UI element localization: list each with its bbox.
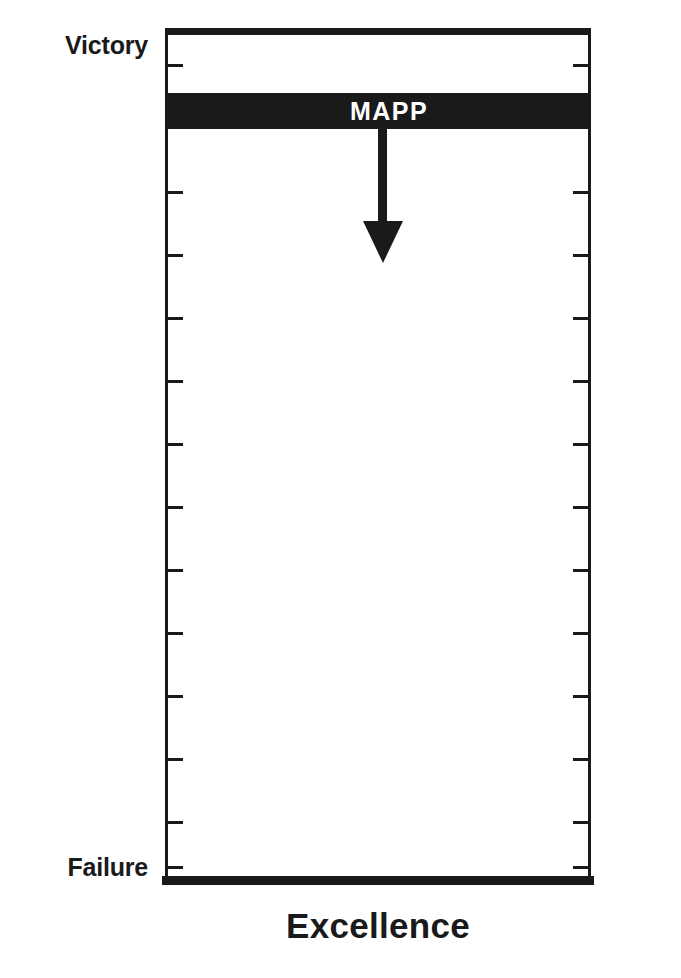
axis-right-line <box>588 28 591 884</box>
y-tick-right <box>573 191 588 194</box>
y-tick-right <box>573 443 588 446</box>
y-axis-top-label: Victory <box>0 33 148 58</box>
y-tick-left <box>168 569 183 572</box>
y-tick-left <box>168 866 183 869</box>
y-tick-left <box>168 821 183 824</box>
y-tick-left <box>168 191 183 194</box>
y-tick-left <box>168 632 183 635</box>
y-tick-left <box>168 254 183 257</box>
y-tick-right <box>573 254 588 257</box>
y-tick-right <box>573 758 588 761</box>
y-axis-title-container: Accomplishment <box>600 303 644 655</box>
y-tick-right <box>573 64 588 67</box>
chart-figure: Victory Failure <box>0 0 681 978</box>
mapp-band-label: MAPP <box>165 93 591 129</box>
y-tick-right <box>573 866 588 869</box>
y-tick-left <box>168 758 183 761</box>
y-tick-right <box>573 380 588 383</box>
y-tick-right <box>573 317 588 320</box>
y-tick-left <box>168 64 183 67</box>
down-arrow-icon <box>361 129 405 265</box>
y-tick-right <box>573 569 588 572</box>
y-tick-right <box>573 821 588 824</box>
axis-left-line <box>165 28 168 884</box>
y-tick-left <box>168 443 183 446</box>
plot-area: MAPP <box>165 28 591 884</box>
y-tick-left <box>168 695 183 698</box>
y-axis-bottom-label: Failure <box>0 855 148 880</box>
y-tick-left <box>168 380 183 383</box>
y-tick-left <box>168 506 183 509</box>
mapp-band: MAPP <box>165 93 591 129</box>
y-tick-left <box>168 317 183 320</box>
axis-bottom-line <box>162 876 594 885</box>
axis-top-line <box>165 28 591 35</box>
x-axis-title: Excellence <box>165 908 591 943</box>
y-tick-right <box>573 506 588 509</box>
y-tick-right <box>573 632 588 635</box>
y-tick-right <box>573 695 588 698</box>
